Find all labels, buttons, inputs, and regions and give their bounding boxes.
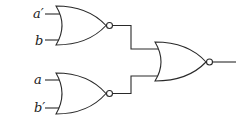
or-gate-body [155,42,206,81]
input-label-a: a [34,72,42,87]
inversion-bubble-icon [107,23,113,29]
input-label-a-prime: a′ [33,6,44,21]
input-label-b-prime: b′ [34,100,45,115]
wire-gate2-to-gate3 [113,76,159,94]
or-gate-body [56,6,106,45]
inversion-bubble-icon [107,91,113,97]
input-label-b: b [35,33,43,48]
logic-circuit-diagram: a′ b a b′ [0,0,252,122]
nor-gate-1 [56,6,113,45]
wire-gate1-to-gate3 [113,26,159,50]
nor-gate-3 [155,42,213,81]
inversion-bubble-icon [207,59,213,65]
or-gate-body [56,73,106,114]
nor-gate-2 [56,73,113,114]
